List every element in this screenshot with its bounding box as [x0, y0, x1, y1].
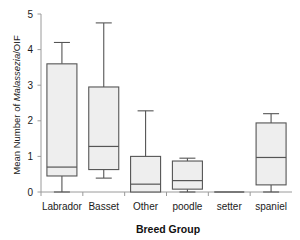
- y-tick-label: 5: [27, 9, 33, 20]
- chart-figure: Mean Number of Malassezia/OIF 012345 Lab…: [0, 0, 300, 240]
- y-tick-label: 3: [27, 80, 33, 91]
- x-category-label: Labrador: [42, 201, 83, 212]
- box-plot-item: [256, 114, 286, 192]
- box-iqr-rect: [256, 123, 286, 185]
- box-iqr-rect: [47, 64, 77, 176]
- y-axis-label-text: Mean Number of Malassezia/OIF: [11, 35, 22, 175]
- x-category-label: spaniel: [255, 201, 287, 212]
- box-plot-item: [47, 42, 77, 192]
- y-tick-label: 4: [27, 44, 33, 55]
- x-category-labels: LabradorBassetOtherpoodlesetterspaniel: [41, 192, 287, 212]
- boxplot-chart: Mean Number of Malassezia/OIF 012345 Lab…: [0, 0, 300, 240]
- x-category-label: poodle: [172, 201, 202, 212]
- y-axis-label: Mean Number of Malassezia/OIF: [11, 35, 22, 175]
- box-iqr-rect: [89, 87, 119, 170]
- x-axis-title: Breed Group: [136, 223, 200, 235]
- box-plot-item: [131, 111, 161, 192]
- y-tick-labels: 012345: [27, 9, 33, 198]
- x-category-label: Other: [133, 201, 159, 212]
- y-tick-label: 1: [27, 151, 33, 162]
- y-tick-marks: [38, 14, 42, 192]
- y-tick-label: 0: [27, 187, 33, 198]
- box-plot-series: [47, 23, 286, 192]
- box-iqr-rect: [172, 161, 202, 189]
- box-plot-item: [172, 158, 202, 192]
- x-category-label: Basset: [88, 201, 119, 212]
- x-category-label: setter: [217, 201, 243, 212]
- box-plot-item: [89, 23, 119, 178]
- box-iqr-rect: [131, 156, 161, 192]
- y-tick-label: 2: [27, 115, 33, 126]
